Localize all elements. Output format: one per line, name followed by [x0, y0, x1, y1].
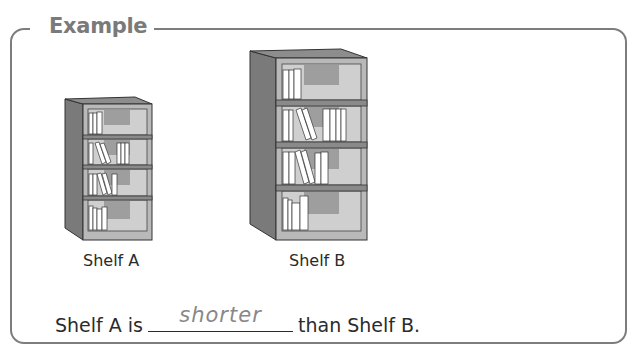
shelf-b-image	[249, 48, 369, 242]
shelf-a-image	[64, 96, 154, 242]
example-title: Example	[42, 12, 154, 40]
frame-gap	[30, 24, 42, 32]
shelf-b-label: Shelf B	[289, 251, 345, 270]
comparison-sentence: Shelf A is shorter than Shelf B.	[55, 309, 420, 336]
shelf-a-label: Shelf A	[83, 251, 139, 270]
answer-text: shorter	[148, 303, 293, 327]
answer-blank[interactable]: shorter	[148, 309, 293, 332]
sentence-prefix: Shelf A is	[55, 314, 143, 336]
sentence-suffix: than Shelf B.	[298, 314, 420, 336]
